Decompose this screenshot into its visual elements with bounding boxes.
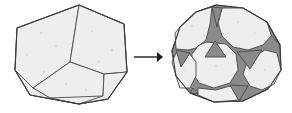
transform-arrow: [134, 52, 163, 62]
right-truncated-dodecahedron: [172, 5, 281, 102]
polyhedra-diagram: [0, 0, 292, 113]
left-dodecahedron: [15, 5, 127, 104]
figure-canvas: [0, 0, 292, 113]
dodeca-face-top-right: [70, 5, 127, 74]
arrow-head-icon: [157, 52, 163, 62]
